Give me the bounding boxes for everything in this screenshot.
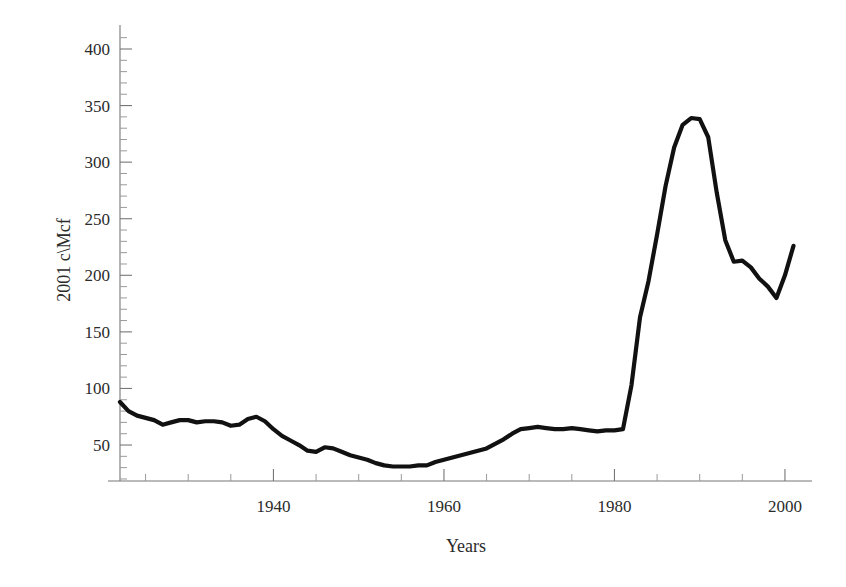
- y-tick-label: 400: [85, 40, 111, 59]
- x-tick-label: 1960: [427, 497, 461, 516]
- y-tick-label: 50: [93, 436, 110, 455]
- y-tick-label: 150: [85, 323, 111, 342]
- y-axis-tick-labels: 50100150200250300350400: [85, 40, 111, 455]
- y-tick-label: 350: [85, 97, 111, 116]
- y-axis-major-ticks: [120, 49, 132, 445]
- y-tick-label: 300: [85, 153, 111, 172]
- y-tick-label: 200: [85, 266, 111, 285]
- y-axis-title: 2001 c\Mcf: [54, 218, 74, 301]
- x-axis-tick-labels: 1940196019802000: [256, 497, 802, 516]
- y-tick-label: 100: [85, 379, 111, 398]
- x-tick-label: 1940: [256, 497, 290, 516]
- chart-figure: 50100150200250300350400 1940196019802000…: [0, 0, 846, 587]
- y-axis-minor-ticks: [120, 38, 127, 479]
- x-tick-label: 2000: [768, 497, 802, 516]
- line-chart: 50100150200250300350400 1940196019802000…: [0, 0, 846, 587]
- y-tick-label: 250: [85, 210, 111, 229]
- x-tick-label: 1980: [597, 497, 631, 516]
- data-series-line: [120, 118, 793, 467]
- x-axis-title: Years: [446, 536, 486, 556]
